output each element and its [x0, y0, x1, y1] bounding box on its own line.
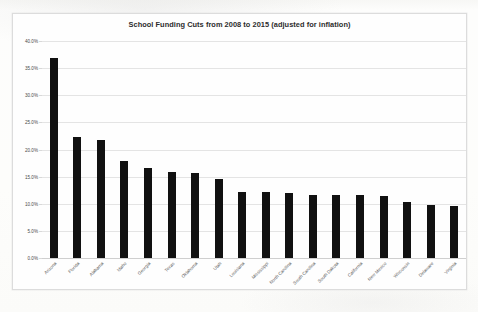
bar [120, 161, 128, 258]
x-axis-tick-label: Mississippi [250, 261, 269, 280]
bar [309, 195, 317, 258]
y-axis-tick-label: 15.0% [25, 174, 38, 179]
bar [50, 58, 58, 258]
x-axis-tick-label: Texas [163, 261, 175, 273]
bar [144, 168, 152, 258]
bar [427, 205, 435, 258]
x-axis-tick-label: Utah [212, 261, 222, 271]
bar [238, 192, 246, 258]
bar [191, 173, 199, 258]
x-axis-tick-label: Florida [68, 261, 81, 274]
y-axis-tick-mark [39, 258, 42, 259]
x-axis-tick-label: South Dakota [317, 261, 340, 284]
x-axis-tick-label: Idaho [116, 261, 128, 273]
bar [403, 202, 411, 258]
bars-group [42, 41, 466, 258]
bar [262, 192, 270, 258]
y-axis-tick-label: 10.0% [25, 201, 38, 206]
x-axis-tick-label: Virginia [444, 261, 458, 275]
bar [332, 195, 340, 258]
y-axis-tick-label: 20.0% [25, 147, 38, 152]
gridline [42, 258, 466, 259]
y-axis-tick-label: 30.0% [25, 93, 38, 98]
x-axis-tick-label: Oklahoma [181, 261, 199, 279]
y-axis-tick-label: 35.0% [25, 66, 38, 71]
x-axis-tick-label: Arizona [43, 261, 57, 275]
x-axis-tick-label: New Mexico [366, 261, 387, 282]
chart-title: School Funding Cuts from 2008 to 2015 (a… [13, 20, 466, 29]
bar [97, 140, 105, 258]
y-axis-tick-label: 40.0% [25, 39, 38, 44]
x-axis-tick-label: South Carolina [292, 261, 317, 286]
x-axis-tick-label: Alabama [88, 261, 104, 277]
x-axis-tick-label: Delaware [417, 261, 434, 278]
plot-area: 40.0%35.0%30.0%25.0%20.0%15.0%10.0%5.0%0… [42, 41, 466, 258]
x-axis-tick-label: Georgia [137, 261, 152, 276]
x-axis-tick-label: Wisconsin [393, 261, 411, 279]
bar [168, 172, 176, 258]
x-axis-tick-label: North Carolina [269, 261, 293, 285]
chart-container: School Funding Cuts from 2008 to 2015 (a… [12, 13, 467, 290]
y-axis-tick-label: 25.0% [25, 120, 38, 125]
bar [356, 195, 364, 258]
bar [285, 193, 293, 258]
bar [73, 137, 81, 258]
bar [380, 196, 388, 258]
bar [450, 206, 458, 258]
x-axis-labels-group: ArizonaFloridaAlabamaIdahoGeorgiaTexasOk… [42, 260, 466, 304]
bar [215, 179, 223, 258]
y-axis-tick-label: 5.0% [28, 228, 38, 233]
x-axis-tick-label: Louisiana [229, 261, 246, 278]
y-axis-tick-label: 0.0% [28, 256, 38, 261]
x-axis-tick-label: California [347, 261, 364, 278]
